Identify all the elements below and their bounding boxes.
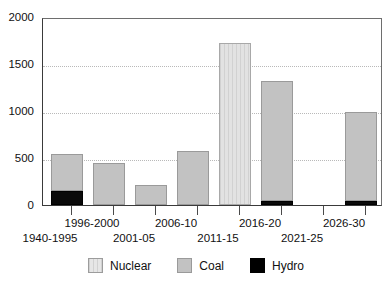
bar-segment-coal	[261, 81, 293, 201]
x-axis-label-2001-05: 2001-05	[113, 232, 155, 244]
bar-segment-coal	[177, 151, 209, 206]
x-axis-tick-2	[113, 206, 114, 215]
x-axis-tick-7	[323, 206, 324, 215]
legend-label-hydro: Hydro	[272, 259, 304, 273]
legend-label-nuclear: Nuclear	[110, 259, 151, 273]
x-axis-label-2021-25: 2021-25	[281, 232, 323, 244]
x-axis-tick-6	[281, 206, 282, 215]
x-axis-tick-4	[197, 206, 198, 215]
bar-1996-2000	[93, 163, 125, 205]
legend: Nuclear Coal Hydro	[0, 258, 392, 273]
gridline-500	[43, 160, 381, 161]
x-axis-label-1996-2000: 1996-2000	[65, 217, 120, 229]
bar-segment-nuclear	[219, 43, 251, 205]
bar-segment-hydro	[51, 191, 83, 205]
x-axis-label-2026-30: 2026-30	[323, 217, 365, 229]
y-axis-tick-0: 0	[28, 200, 34, 212]
legend-swatch-hydro-icon	[250, 258, 265, 273]
legend-item-coal: Coal	[177, 258, 224, 273]
x-axis-tick-1	[71, 206, 72, 215]
gridline-1500	[43, 66, 381, 67]
bar-segment-hydro	[345, 201, 377, 206]
x-axis-tick-5	[239, 206, 240, 215]
x-axis-tick-8	[365, 206, 366, 215]
bar-chart: 2000 1500 1000 500 0	[0, 0, 392, 289]
y-axis: 2000 1500 1000 500 0	[0, 0, 38, 289]
bar-segment-coal	[93, 163, 125, 205]
bar-segment-coal	[51, 154, 83, 191]
y-axis-tick-500: 500	[15, 153, 34, 165]
bar-segment-hydro	[261, 201, 293, 206]
bar-2016-20	[261, 81, 293, 205]
bar-2006-10	[177, 151, 209, 206]
bar-2011-15	[219, 43, 251, 205]
gridline-1000	[43, 113, 381, 114]
x-axis-tick-3	[155, 206, 156, 215]
plot-inner	[43, 19, 381, 205]
y-axis-tick-1500: 1500	[8, 59, 34, 71]
bar-2001-05	[135, 185, 167, 205]
bar-segment-coal	[135, 185, 167, 205]
x-axis-label-2016-20: 2016-20	[239, 217, 281, 229]
x-axis-label-1940-1995: 1940-1995	[23, 232, 78, 244]
y-axis-tick-2000: 2000	[8, 12, 34, 24]
legend-swatch-nuclear-icon	[88, 258, 103, 273]
bar-2026-30	[345, 112, 377, 205]
x-axis-label-2006-10: 2006-10	[155, 217, 197, 229]
legend-label-coal: Coal	[199, 259, 224, 273]
x-axis-label-2011-15: 2011-15	[197, 232, 238, 244]
bar-1940-1995	[51, 154, 83, 205]
legend-item-hydro: Hydro	[250, 258, 304, 273]
y-axis-tick-1000: 1000	[8, 106, 34, 118]
legend-swatch-coal-icon	[177, 258, 192, 273]
bar-segment-coal	[345, 112, 377, 201]
legend-item-nuclear: Nuclear	[88, 258, 151, 273]
plot-area	[42, 18, 382, 206]
